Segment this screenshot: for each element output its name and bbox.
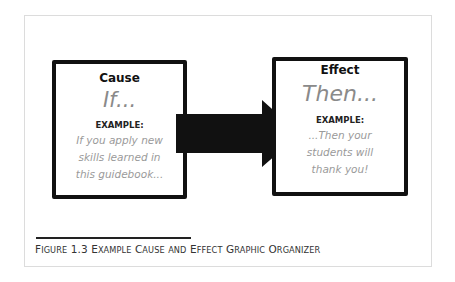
effect-example-label: EXAMPLE: <box>276 115 404 126</box>
cause-heading: Cause <box>56 71 183 85</box>
cause-example-text: If you apply new skills learned in this … <box>56 132 183 183</box>
cause-keyword: If... <box>56 87 183 113</box>
effect-example-line: students will <box>276 144 404 161</box>
effect-example-line: ...Then your <box>276 127 404 144</box>
effect-box: Effect Then... EXAMPLE: ...Then your stu… <box>272 57 408 196</box>
effect-example-text: ...Then your students will thank you! <box>276 127 404 178</box>
figure-caption: FIGURE 1.3 EXAMPLE CAUSE AND EFFECT GRAP… <box>35 243 320 255</box>
cause-example-line: this guidebook... <box>56 166 183 183</box>
cause-box: Cause If... EXAMPLE: If you apply new sk… <box>52 60 187 199</box>
effect-example-line: thank you! <box>276 161 404 178</box>
caption-rule <box>36 237 191 239</box>
cause-example-line: skills learned in <box>56 149 183 166</box>
cause-example-line: If you apply new <box>56 132 183 149</box>
effect-keyword: Then... <box>276 80 404 108</box>
cause-example-label: EXAMPLE: <box>56 120 183 131</box>
effect-heading: Effect <box>276 63 404 77</box>
